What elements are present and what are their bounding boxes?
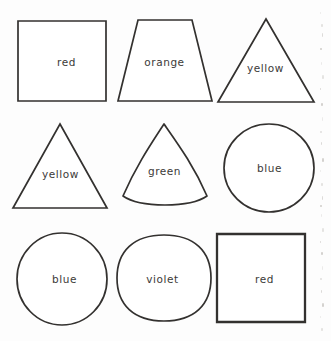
shape-cell-red-square-top: red — [14, 14, 119, 122]
rounded-oval-icon — [110, 231, 215, 339]
shape-cell-orange-trapezoid: orange — [112, 14, 217, 122]
shape-color-chart: red orange yellow yellow green blue — [0, 0, 331, 341]
shape-cell-yellow-triangle-mid: yellow — [8, 118, 113, 226]
square-icon — [14, 14, 119, 122]
triangle-icon — [8, 118, 113, 226]
shape-cell-violet-oval: violet — [110, 231, 215, 339]
square-icon — [212, 231, 317, 339]
triangle-icon — [213, 14, 318, 122]
circle-icon — [12, 231, 117, 339]
shape-cell-red-square-bottom: red — [212, 231, 317, 339]
reuleaux-triangle-icon — [112, 118, 217, 226]
shape-cell-blue-circle-bottom: blue — [12, 231, 117, 339]
circle-icon — [217, 118, 322, 226]
trapezoid-icon — [112, 14, 217, 122]
shape-cell-green-reuleaux: green — [112, 118, 217, 226]
shape-cell-blue-circle-mid: blue — [217, 118, 322, 226]
shape-cell-yellow-triangle-top: yellow — [213, 14, 318, 122]
